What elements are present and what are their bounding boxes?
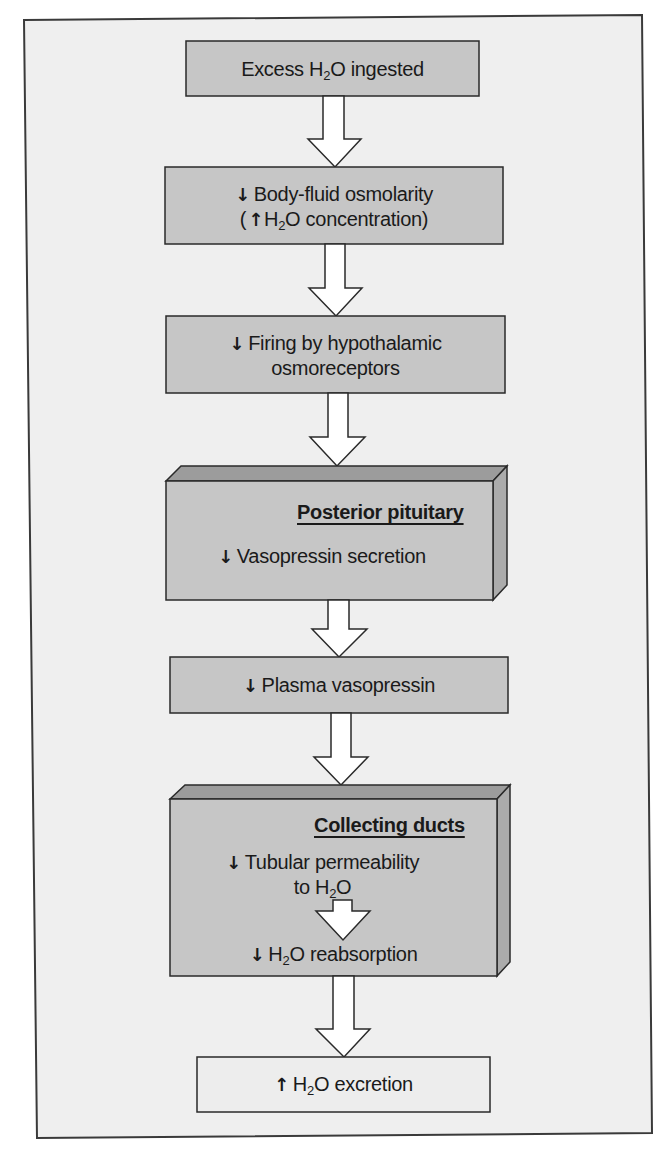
box-pituitary-side-face bbox=[493, 466, 507, 600]
text: H bbox=[293, 1073, 307, 1095]
step-6-label: ↓Tubular permeability to H2O bbox=[170, 850, 475, 899]
box-pituitary-top-face bbox=[166, 466, 507, 481]
text: O concentration) bbox=[285, 208, 428, 230]
down-arrow-icon: ↓ bbox=[218, 546, 233, 567]
text: O reabsorption bbox=[289, 943, 417, 965]
text: Plasma vasopressin bbox=[262, 674, 436, 696]
text: Firing by hypothalamic bbox=[248, 332, 442, 354]
text: Vasopressin secretion bbox=[237, 545, 426, 567]
text: Body-fluid osmolarity bbox=[254, 183, 433, 205]
box-ducts-top-face bbox=[170, 785, 510, 799]
down-arrow-icon: ↓ bbox=[250, 944, 265, 965]
subscript: 2 bbox=[307, 1083, 314, 1098]
step-6-header: Collecting ducts bbox=[314, 813, 465, 837]
text: H bbox=[268, 943, 282, 965]
step-3-label: ↓Firing by hypothalamic osmoreceptors bbox=[166, 331, 505, 380]
step-2-label: ↓Body-fluid osmolarity (↑H2O concentrati… bbox=[165, 182, 503, 232]
up-arrow-icon: ↑ bbox=[274, 1074, 289, 1095]
text: O bbox=[336, 876, 351, 898]
step-5-label: ↓Plasma vasopressin bbox=[170, 673, 508, 698]
flowchart-canvas bbox=[0, 0, 671, 1156]
up-arrow-icon: ↑ bbox=[248, 209, 263, 230]
step-4-label: ↓Vasopressin secretion bbox=[218, 544, 426, 569]
down-arrow-icon: ↓ bbox=[235, 184, 250, 205]
text: ( bbox=[240, 208, 246, 230]
box-pituitary-front bbox=[166, 481, 493, 600]
text: O excretion bbox=[314, 1073, 413, 1095]
text: osmoreceptors bbox=[166, 356, 505, 380]
step-1-label: Excess H2O ingested bbox=[186, 57, 479, 81]
down-arrow-icon: ↓ bbox=[229, 333, 244, 354]
down-arrow-icon: ↓ bbox=[226, 852, 241, 873]
text: Excess H bbox=[241, 58, 323, 80]
step-7-label: ↑H2O excretion bbox=[197, 1072, 490, 1097]
box-ducts-side-face bbox=[497, 785, 510, 976]
text: O ingested bbox=[330, 58, 424, 80]
text: H bbox=[264, 208, 278, 230]
down-arrow-icon: ↓ bbox=[243, 675, 258, 696]
text: Tubular permeability bbox=[245, 851, 419, 873]
text: to H bbox=[294, 876, 329, 898]
step-6-sublabel: ↓H2O reabsorption bbox=[170, 942, 497, 967]
step-4-header: Posterior pituitary bbox=[297, 500, 464, 524]
